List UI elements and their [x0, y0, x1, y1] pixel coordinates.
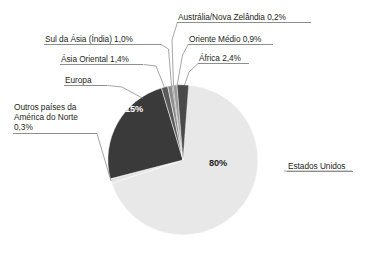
- callout-oriente-medio: Oriente Médio 0,9%: [189, 34, 261, 44]
- callout-outros-america-norte-line2: América do Norte: [14, 112, 78, 122]
- leader-line-outros-america-norte: [40, 134, 111, 182]
- callout-outros-america-norte-line1: Outros países da: [14, 102, 76, 112]
- callout-rule-outros-america-norte: [13, 133, 97, 134]
- leader-line-africa: [185, 64, 199, 86]
- callout-rule-europa: [64, 85, 107, 86]
- slice-label-europa-percent: 15%: [125, 104, 143, 114]
- callout-rule-asia-oriental: [60, 64, 143, 65]
- callout-rule-africa: [198, 63, 249, 64]
- callout-asia-oriental: Ásia Oriental 1,4%: [61, 54, 129, 64]
- callout-estados-unidos: Estados Unidos: [288, 161, 345, 171]
- callout-rule-oriente-medio: [188, 44, 273, 45]
- callout-outros-america-norte-line3: 0,3%: [14, 122, 33, 132]
- callout-australia-nova-zelandia: Austrália/Nova Zelândia 0,2%: [178, 12, 286, 22]
- callout-rule-estados-unidos: [287, 171, 353, 172]
- callout-sul-asia-india: Sul da Ásia (Índia) 1,0%: [45, 34, 133, 44]
- slice-label-estados-unidos-percent: 80%: [209, 158, 227, 168]
- callout-europa: Europa: [65, 75, 91, 85]
- pie-chart-figure: Austrália/Nova Zelândia 0,2% Oriente Méd…: [0, 0, 369, 268]
- callout-africa: África 2,4%: [199, 53, 241, 63]
- callout-rule-australia: [177, 22, 311, 23]
- leader-line-asia-oriental: [144, 65, 165, 88]
- callout-rule-sul-asia: [44, 44, 161, 45]
- leader-line-europa: [108, 86, 144, 99]
- leader-line-sul-asia: [161, 45, 172, 87]
- leader-line-australia: [172, 22, 178, 86]
